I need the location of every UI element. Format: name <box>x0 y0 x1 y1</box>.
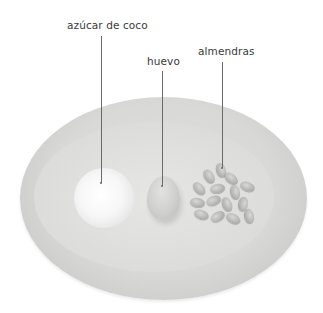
almond <box>193 208 210 222</box>
almond <box>205 194 222 208</box>
almond <box>191 180 208 197</box>
almond <box>244 208 255 224</box>
almond <box>202 168 217 185</box>
almond <box>189 197 205 208</box>
leader-dot-almonds <box>221 167 223 169</box>
almond <box>223 170 240 187</box>
coconut-sugar-pile <box>74 168 134 228</box>
almonds-pile <box>188 160 258 230</box>
label-almonds: almendras <box>198 45 254 57</box>
almond <box>225 211 242 226</box>
egg <box>147 176 180 220</box>
leader-dot-egg <box>161 185 163 187</box>
leader-line-almonds <box>222 62 223 168</box>
label-coconut-sugar: azúcar de coco <box>67 19 148 31</box>
almond <box>209 209 226 224</box>
label-egg: huevo <box>147 55 180 67</box>
leader-line-egg <box>162 71 163 186</box>
almond <box>230 184 241 200</box>
leader-dot-coconut-sugar <box>100 182 102 184</box>
leader-line-coconut-sugar <box>101 36 102 183</box>
almond <box>209 183 225 194</box>
almond <box>239 180 256 194</box>
